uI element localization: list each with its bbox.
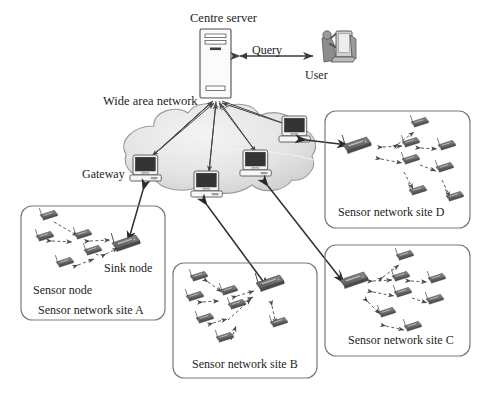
query-label: Query [252,43,282,58]
gateway-pc-1 [130,155,161,181]
centre-server-graphic [200,29,231,98]
wide-area-network-label: Wide area network [103,94,198,109]
sink-node-c [339,266,369,289]
sink-node-a [111,229,141,252]
sink-node-label: Sink node [104,261,152,276]
site-label-d: Sensor network site D [338,205,444,220]
site-label-a: Sensor network site A [38,303,144,318]
sink-node-d [342,131,372,154]
site-d-topology [342,113,464,202]
network-architecture-diagram: Centre server Query User Wide area netwo… [0,0,484,395]
gateway-label: Gateway [82,167,125,182]
site-b-topology [185,267,288,343]
site-label-c: Sensor network site C [348,333,454,348]
gateway-pc-2 [191,171,222,197]
sensor-node-label: Sensor node [33,283,92,298]
gateway-pc-3 [240,150,271,176]
site-c-topology [339,246,446,332]
sink-node-b [255,269,285,292]
site-label-b: Sensor network site B [192,357,298,372]
site-a-topology [35,206,141,268]
user-label: User [305,68,328,83]
user-figure-graphic [322,31,356,62]
centre-server-label: Centre server [190,11,257,26]
gateway-pc-4 [279,116,310,142]
